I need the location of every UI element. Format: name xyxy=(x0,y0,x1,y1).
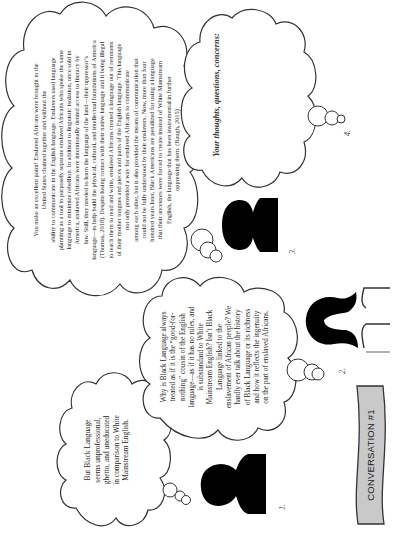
speaker-3-label: 3. xyxy=(288,248,297,254)
bubble-4-prompt: Your thoughts, questions, concerns: xyxy=(212,20,222,170)
thought-bubble-4: Your thoughts, questions, concerns: xyxy=(178,8,312,192)
bubble-3-text: You make an excellent point! Enslaved Af… xyxy=(32,4,181,296)
speaker-1-label: 1. xyxy=(278,504,287,510)
bubble-1-text: But Black Language seems unprofessional,… xyxy=(83,390,131,510)
bubble-4-response-area[interactable] xyxy=(228,28,288,168)
conversation-banner: CONVERSATION #1 xyxy=(354,384,386,526)
document-page: CONVERSATION #1 1. 2. 3. 4. But Black xyxy=(0,0,403,546)
speaker-2-label: 2. xyxy=(338,368,347,374)
thought-bubble-3: You make an excellent point! Enslaved Af… xyxy=(2,0,198,300)
banner-label: CONVERSATION #1 xyxy=(354,384,386,526)
bubble-2-text: Why is Black Language always treated as … xyxy=(160,286,272,428)
